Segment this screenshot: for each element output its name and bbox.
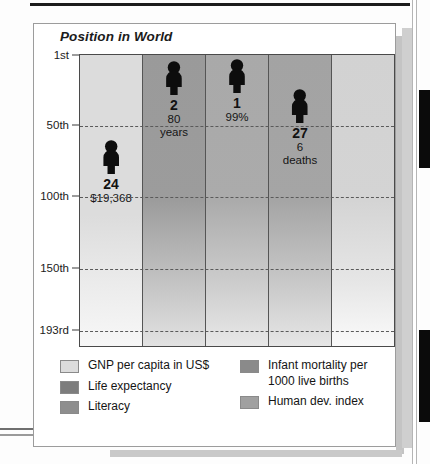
y-tick-label-1st: 1st [54, 49, 69, 61]
bar-columns: 24 $19,368 2 80 years [80, 55, 394, 346]
legend-column-right: Infant mortality per 1000 live birthsHum… [240, 358, 380, 415]
page-left-rule-lower [0, 434, 36, 436]
figure-group-infant-mortality: 27 6 deaths [283, 89, 318, 168]
person-icon [224, 59, 250, 93]
figure-group-life-expectancy: 2 80 years [160, 61, 188, 140]
y-tick-label-50th: 50th [47, 119, 69, 131]
legend-swatch [60, 401, 79, 414]
page-top-rule [30, 3, 410, 6]
person-icon [161, 61, 187, 95]
page-edge-shade [402, 28, 412, 448]
legend-item[interactable]: Human dev. index [240, 394, 380, 410]
legend-column-left: GNP per capita in US$Life expectancyLite… [60, 358, 230, 420]
metric-value-life-line2: years [160, 126, 188, 139]
bar-column-infant-mortality[interactable]: 27 6 deaths [269, 55, 332, 346]
bar-column-gnp[interactable]: 24 $19,368 [80, 55, 143, 346]
person-icon [98, 140, 124, 174]
legend-swatch [60, 360, 79, 373]
legend-label: Literacy [88, 399, 130, 415]
y-tick-label-150th: 150th [40, 262, 69, 274]
rank-value-gnp: 24 [90, 176, 132, 192]
legend: GNP per capita in US$Life expectancyLite… [60, 358, 378, 430]
column-fill [332, 55, 394, 346]
page-left-rule-upper [0, 428, 36, 430]
metric-value-gnp-line1: $19,368 [90, 192, 132, 205]
card-drop-shadow-bottom [110, 450, 402, 457]
legend-label: Human dev. index [268, 394, 364, 410]
metric-value-imr-line2: deaths [283, 154, 318, 167]
figure-group-literacy: 1 99% [224, 59, 250, 124]
chart-card: Position in World 1st50th100th150th193rd… [33, 23, 396, 447]
plot-area: 24 $19,368 2 80 years [79, 54, 395, 347]
page-edge-mark-upper [419, 90, 430, 168]
person-icon [287, 89, 313, 123]
y-tick-mark-1st [72, 54, 79, 55]
bar-column-life-expectancy[interactable]: 2 80 years [143, 55, 206, 346]
y-tick-mark-50th [72, 124, 79, 125]
legend-item[interactable]: GNP per capita in US$ [60, 358, 230, 374]
metric-value-imr-line1: 6 [283, 141, 318, 154]
y-tick-label-100th: 100th [40, 190, 69, 202]
bar-column-human-dev-index[interactable] [332, 55, 394, 346]
legend-swatch [60, 381, 79, 394]
y-tick-mark-100th [72, 196, 79, 197]
page-edge-strip [412, 0, 417, 464]
rank-value-literacy: 1 [224, 95, 250, 111]
legend-item[interactable]: Life expectancy [60, 379, 230, 395]
legend-swatch [240, 396, 259, 409]
legend-swatch [240, 360, 259, 373]
legend-item[interactable]: Literacy [60, 399, 230, 415]
legend-label: GNP per capita in US$ [88, 358, 209, 374]
y-tick-mark-150th [72, 267, 79, 268]
rank-value-infant-mortality: 27 [283, 125, 318, 141]
legend-label: Infant mortality per 1000 live births [268, 358, 380, 389]
metric-value-literacy-line1: 99% [224, 111, 250, 124]
figure-group-gnp: 24 $19,368 [90, 140, 132, 205]
y-tick-label-193rd: 193rd [40, 324, 69, 336]
y-tick-mark-193rd [72, 329, 79, 330]
metric-value-life-line1: 80 [160, 113, 188, 126]
rank-value-life-expectancy: 2 [160, 97, 188, 113]
legend-label: Life expectancy [88, 379, 171, 395]
bar-column-literacy[interactable]: 1 99% [206, 55, 269, 346]
legend-item[interactable]: Infant mortality per 1000 live births [240, 358, 380, 389]
page-edge-mark-lower [419, 330, 430, 422]
